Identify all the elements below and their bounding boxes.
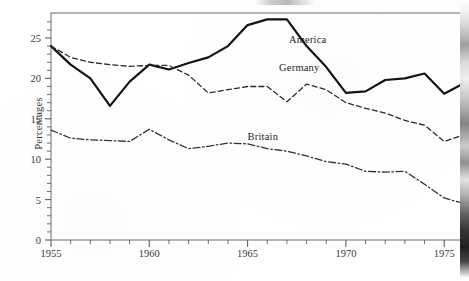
- series-label-britain: Britain: [248, 131, 279, 142]
- axis-ticks: [45, 22, 444, 247]
- x-tick-label: 1975: [424, 248, 464, 259]
- x-tick-label: 1965: [228, 248, 268, 259]
- y-tick-label: 10: [19, 154, 41, 165]
- line-chart-figure: Percentages 0510152025 19551960196519701…: [0, 0, 469, 281]
- data-series-lines: [51, 19, 464, 203]
- plot-frame: [51, 13, 462, 240]
- page-scan-top-artifact: [255, 0, 315, 5]
- series-line-america: [51, 19, 464, 105]
- y-tick-label: 15: [19, 113, 41, 124]
- series-label-america: America: [289, 34, 327, 45]
- x-tick-label: 1970: [326, 248, 366, 259]
- y-tick-label: 20: [19, 73, 41, 84]
- x-tick-label: 1955: [31, 248, 71, 259]
- series-label-germany: Germany: [279, 62, 319, 73]
- series-line-germany: [51, 46, 464, 141]
- page-edge-artifact: [460, 0, 469, 281]
- y-tick-label: 5: [19, 194, 41, 205]
- plot-canvas: [0, 0, 469, 281]
- y-tick-label: 25: [19, 33, 41, 44]
- y-tick-label: 0: [19, 235, 41, 246]
- x-tick-label: 1960: [129, 248, 169, 259]
